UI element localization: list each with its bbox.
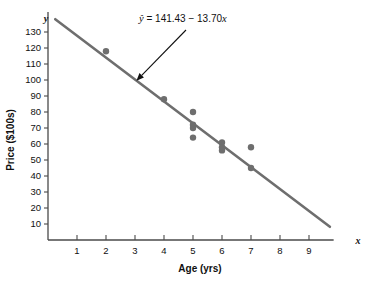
y-axis-tick-label: 40 [30, 170, 41, 181]
y-axis-tick-label: 20 [30, 202, 41, 213]
data-point [190, 125, 196, 131]
x-axis-tick-label: 6 [219, 245, 224, 256]
y-axis-tick-label: 90 [30, 90, 41, 101]
y-axis-tick-label: 70 [30, 122, 41, 133]
chart-background [0, 0, 369, 285]
y-axis-tick-label: 60 [30, 138, 41, 149]
data-point [248, 144, 254, 150]
equation-body: = 141.43 − 13.70 [144, 13, 223, 24]
data-point [190, 109, 196, 115]
x-axis-tick-label: 8 [277, 245, 282, 256]
y-axis-tick-label: 50 [30, 154, 41, 165]
data-point [103, 48, 109, 54]
x-axis-tick-label: 2 [103, 245, 108, 256]
x-axis-tick-label: 5 [190, 245, 195, 256]
y-axis-tick-label: 80 [30, 106, 41, 117]
x-axis-tick-label: 7 [248, 245, 253, 256]
y-axis-tick-label: 100 [25, 74, 41, 85]
y-axis-tick-label: 130 [25, 26, 41, 37]
y-axis-tick-label: 120 [25, 42, 41, 53]
data-point [248, 165, 254, 171]
y-axis-title: Price ($100s) [5, 109, 16, 171]
regression-equation-label: ŷ = 141.43 − 13.70x [138, 13, 227, 24]
y-axis-tick-label: 30 [30, 186, 41, 197]
data-point [219, 147, 225, 153]
y-axis-symbol: y [43, 13, 49, 24]
y-axis-tick-label: 10 [30, 218, 41, 229]
x-axis-tick-label: 1 [74, 245, 79, 256]
equation-x: x [221, 13, 227, 24]
x-axis-tick-label: 9 [306, 245, 311, 256]
data-point [190, 134, 196, 140]
chart-canvas: 102030405060708090100110120130 123456789… [0, 0, 369, 285]
x-axis-tick-label: 4 [161, 245, 166, 256]
x-axis-title: Age (yrs) [178, 263, 221, 274]
data-point [161, 96, 167, 102]
x-axis-tick-label: 3 [132, 245, 137, 256]
y-axis-tick-label: 110 [26, 58, 41, 69]
x-axis-symbol: x [355, 235, 361, 246]
scatter-chart: 102030405060708090100110120130 123456789… [0, 0, 369, 285]
